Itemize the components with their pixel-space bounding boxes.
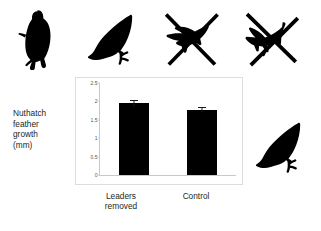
- x-axis-category-label: Leaders removed: [93, 191, 149, 212]
- y-tick-mark: [98, 175, 100, 176]
- plot-area: 00.511.522.5: [99, 83, 236, 176]
- nuthatch-wing-raised-silhouette-icon: [88, 12, 142, 68]
- y-tick-label: 2.5: [91, 81, 98, 86]
- nuthatch-crossed-out-silhouette-icon: [238, 8, 304, 70]
- nuthatch-upright-silhouette-icon: [14, 8, 60, 70]
- y-tick-mark: [98, 101, 100, 102]
- bar: [187, 110, 217, 176]
- y-tick-mark: [98, 138, 100, 139]
- y-tick-label: 1.5: [91, 117, 98, 122]
- nuthatch-crossed-out-silhouette-icon: [160, 8, 222, 70]
- y-tick-label: 0.5: [91, 154, 98, 159]
- error-bar: [198, 107, 206, 111]
- y-tick-mark: [98, 83, 100, 84]
- y-tick-mark: [98, 156, 100, 157]
- error-bar-cap: [130, 100, 138, 101]
- error-bar-cap: [198, 107, 206, 108]
- bar: [119, 103, 149, 175]
- error-bar: [130, 100, 138, 107]
- bar-chart: 00.511.522.5: [75, 77, 243, 185]
- x-axis-category-label: Control: [168, 191, 224, 201]
- nuthatch-wing-raised-silhouette-icon: [256, 120, 310, 176]
- y-tick-mark: [98, 119, 100, 120]
- y-axis-title: Nuthatch feather growth (mm): [13, 108, 79, 150]
